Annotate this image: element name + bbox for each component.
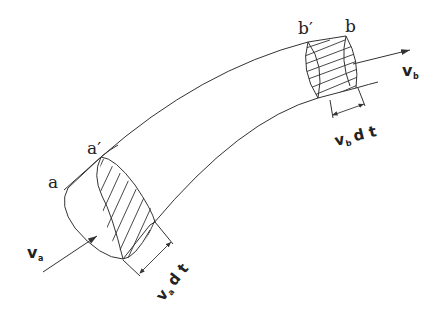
label-va-dt: v a d t — [152, 260, 193, 305]
cross-section-a — [64, 188, 150, 259]
svg-text:v: v — [402, 61, 413, 80]
label-v-a: v a — [27, 243, 43, 263]
dimension-va-dt — [140, 242, 171, 273]
diagram-canvas: a a′ b′ b v a v b v a d t v b d t — [0, 0, 445, 327]
label-b: b — [345, 16, 356, 36]
label-a-prime: a′ — [87, 138, 101, 158]
velocity-arrow-a — [43, 236, 97, 272]
svg-text:d t: d t — [346, 122, 378, 146]
label-v-b: v b — [402, 61, 419, 81]
label-b-prime: b′ — [298, 18, 313, 38]
hatch-volume-a — [80, 145, 172, 262]
label-a: a — [48, 172, 58, 192]
tube-lower-wall — [153, 82, 378, 224]
hatch-volume-b — [300, 40, 360, 99]
svg-text:b: b — [413, 72, 419, 81]
svg-text:a: a — [38, 254, 43, 263]
label-vb-dt: v b d t — [333, 122, 379, 151]
dimension-vb-dt — [333, 104, 364, 115]
flow-tube-diagram: a a′ b′ b v a v b v a d t v b d t — [0, 0, 445, 327]
svg-text:d t: d t — [161, 260, 193, 293]
svg-text:v: v — [27, 243, 38, 262]
